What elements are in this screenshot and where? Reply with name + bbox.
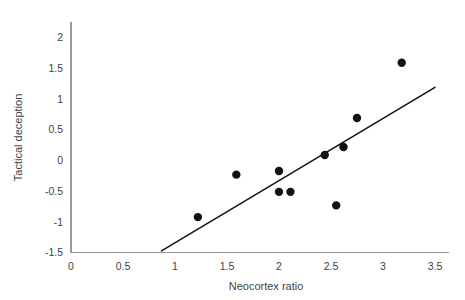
data-point <box>332 201 340 209</box>
y-tick-label: 0.5 <box>48 123 63 135</box>
data-point <box>194 213 202 221</box>
axes <box>71 22 449 253</box>
trend-line-group <box>161 87 435 251</box>
x-axis-tick-labels: 00.511.522.533.5 <box>68 260 442 272</box>
data-point <box>286 188 294 196</box>
y-tick-label: 1.5 <box>48 62 63 74</box>
regression-trend-line <box>161 87 435 251</box>
plot-area: 21.510.50-0.5-1-1.5 00.511.522.533.5 Neo… <box>0 0 465 300</box>
data-point <box>353 114 361 122</box>
y-tick-label: 1 <box>57 93 63 105</box>
x-tick-label: 2.5 <box>324 260 339 272</box>
data-point <box>321 151 329 159</box>
x-tick-label: 1 <box>172 260 178 272</box>
scatter-chart: 21.510.50-0.5-1-1.5 00.511.522.533.5 Neo… <box>0 0 465 300</box>
y-tick-label: -1 <box>54 216 63 228</box>
data-point <box>232 170 240 178</box>
y-axis-tick-labels: 21.510.50-0.5-1-1.5 <box>45 31 63 258</box>
data-points-group <box>194 59 406 222</box>
x-tick-label: 0 <box>68 260 74 272</box>
x-tick-label: 3.5 <box>428 260 443 272</box>
y-tick-label: 0 <box>57 154 63 166</box>
data-point <box>275 167 283 175</box>
data-point <box>275 188 283 196</box>
y-tick-label: 2 <box>57 31 63 43</box>
x-tick-label: 2 <box>276 260 282 272</box>
data-point <box>398 59 406 67</box>
y-tick-label: -0.5 <box>45 185 63 197</box>
axis-lines <box>71 22 449 253</box>
data-point <box>339 143 347 151</box>
x-axis-title: Neocortex ratio <box>229 280 304 292</box>
x-tick-label: 0.5 <box>116 260 131 272</box>
y-tick-label: -1.5 <box>45 246 63 258</box>
x-tick-label: 1.5 <box>220 260 235 272</box>
y-axis-title: Tactical deception <box>12 94 24 181</box>
x-tick-label: 3 <box>380 260 386 272</box>
